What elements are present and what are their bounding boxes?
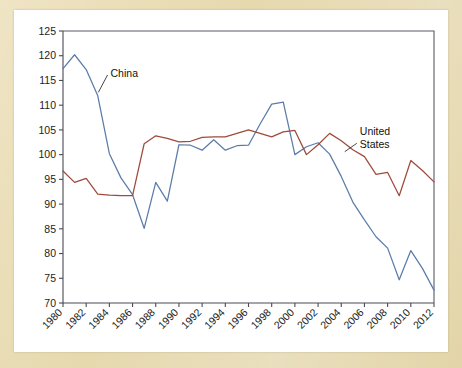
y-tick-label: 85 [44, 223, 56, 235]
x-tick-label: 1994 [202, 306, 227, 331]
x-tick-label: 2010 [387, 306, 412, 331]
line-chart: 707580859095100105110115120125 198019821… [14, 10, 448, 352]
x-tick-label: 1988 [132, 306, 157, 331]
china-series-label: China [111, 67, 139, 79]
x-tick-label: 1996 [225, 306, 250, 331]
x-tick-label: 2012 [410, 306, 435, 331]
united-states-series-label: UnitedStates [360, 125, 391, 150]
x-tick-label: 1982 [63, 306, 88, 331]
y-axis-tick-labels: 707580859095100105110115120125 [38, 25, 56, 309]
x-tick-label: 1984 [86, 306, 111, 331]
x-tick-label: 2006 [341, 306, 366, 331]
x-tick-label: 1990 [155, 306, 180, 331]
x-tick-label: 1992 [179, 306, 204, 331]
y-tick-label: 100 [38, 148, 56, 160]
y-tick-label: 80 [44, 247, 56, 259]
x-tick-label: 2002 [294, 306, 319, 331]
x-tick-label: 2004 [318, 306, 343, 331]
series-line-china [63, 55, 434, 290]
page-root: 707580859095100105110115120125 198019821… [0, 0, 462, 368]
x-tick-label: 1998 [248, 306, 273, 331]
y-tick-label: 120 [38, 49, 56, 61]
x-tick-label: 1980 [39, 306, 64, 331]
data-series [63, 55, 434, 290]
x-tick-label: 2008 [364, 306, 389, 331]
y-tick-label: 105 [38, 124, 56, 136]
x-tick-label: 1986 [109, 306, 134, 331]
united-states-label-line: United [360, 125, 391, 137]
x-axis-tick-labels: 1980198219841986198819901992199419961998… [39, 306, 435, 331]
y-tick-label: 110 [39, 99, 56, 111]
united-states-label-line: States [360, 138, 390, 150]
y-tick-label: 115 [39, 74, 56, 86]
y-tick-label: 125 [38, 25, 56, 37]
x-tick-label: 2000 [271, 306, 296, 331]
china-leader-line [98, 75, 107, 92]
series-annotations: ChinaUnitedStates [98, 67, 390, 151]
y-tick-label: 75 [44, 272, 56, 284]
chart-card: 707580859095100105110115120125 198019821… [14, 10, 448, 352]
y-tick-label: 95 [44, 173, 56, 185]
y-tick-label: 90 [44, 198, 56, 210]
